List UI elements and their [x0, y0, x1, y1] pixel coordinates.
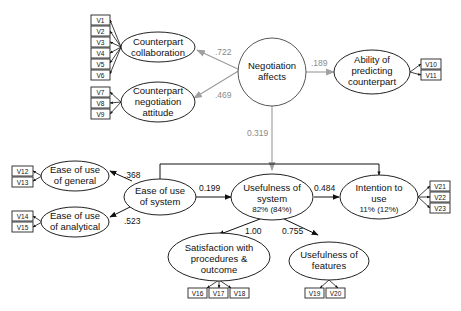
coef-label: 1.00 — [245, 226, 262, 236]
svg-text:predicting: predicting — [351, 65, 392, 76]
svg-text:V13: V13 — [17, 179, 29, 186]
variance-explained: 82% (84%) — [252, 205, 292, 214]
svg-text:system: system — [257, 193, 287, 204]
coef-label: .722 — [215, 47, 232, 57]
svg-text:affects: affects — [258, 71, 286, 82]
path-negotiation-to-usefulness: 0.319 — [247, 103, 272, 170]
svg-text:V3: V3 — [97, 39, 105, 46]
construct-counterpart-negotiation-attitude: Counterpart negotiation attitude — [121, 82, 195, 122]
svg-text:Usefulness of: Usefulness of — [243, 182, 301, 193]
indicators-attitude: V7 V8 V9 — [91, 87, 110, 119]
svg-text:V1: V1 — [97, 17, 105, 24]
svg-text:V8: V8 — [97, 100, 105, 107]
path-usefulness-to-intention: 0.484 — [314, 183, 339, 197]
svg-text:V6: V6 — [97, 72, 105, 79]
svg-text:procedures &: procedures & — [191, 253, 248, 264]
path-negotiation-to-ability: .189 — [305, 58, 334, 72]
path-negotiation-to-collaboration: .722 — [197, 47, 240, 70]
indicators-general: V12 V13 — [12, 166, 33, 187]
loadings-ability — [410, 64, 421, 75]
svg-text:of analytical: of analytical — [50, 221, 100, 232]
svg-text:Counterpart: Counterpart — [133, 85, 184, 96]
svg-text:Usefulness of: Usefulness of — [300, 249, 358, 260]
svg-text:V22: V22 — [434, 194, 446, 201]
construct-ease-of-use-general: Ease of use of general — [41, 161, 109, 191]
svg-text:Counterpart: Counterpart — [133, 36, 184, 47]
construct-ability-predicting-counterpart: Ability of predicting counterpart — [334, 50, 410, 94]
svg-text:counterpart: counterpart — [348, 76, 396, 87]
path-ease-to-general: .368 — [110, 170, 141, 181]
svg-text:of system: of system — [140, 196, 181, 207]
coef-label: .469 — [215, 90, 232, 100]
svg-text:V23: V23 — [434, 205, 446, 212]
svg-text:V17: V17 — [213, 290, 225, 297]
coef-label: 0.319 — [247, 128, 269, 138]
construct-intention-to-use: Intention to use 11% (12%) — [340, 175, 418, 219]
loadings-attitude — [110, 92, 121, 114]
svg-text:V11: V11 — [425, 72, 436, 79]
svg-text:negotiation: negotiation — [135, 96, 181, 107]
svg-text:V5: V5 — [97, 61, 105, 68]
coef-label: 0.199 — [199, 183, 221, 193]
indicators-collaboration: V1 V2 V3 V4 V5 V6 — [91, 15, 110, 80]
svg-text:V7: V7 — [97, 89, 105, 96]
indicators-ability: V10 V11 — [421, 59, 441, 80]
indicators-intention: V21 V22 V23 — [430, 181, 450, 213]
svg-text:features: features — [312, 260, 347, 271]
indicators-analytical: V14 V15 — [12, 211, 33, 232]
svg-text:V19: V19 — [309, 290, 321, 297]
indicators-satisfaction: V16 V17 V18 — [188, 288, 249, 298]
construct-ease-of-use-system: Ease of use of system — [124, 179, 196, 215]
svg-text:Ease of use: Ease of use — [135, 185, 185, 196]
svg-text:collaboration: collaboration — [131, 47, 185, 58]
construct-negotiation-affects: Negotiation affects — [238, 38, 306, 106]
svg-text:V14: V14 — [17, 213, 29, 220]
coef-label: 0.755 — [282, 226, 304, 236]
svg-text:Ease of use: Ease of use — [50, 210, 100, 221]
svg-text:Intention to: Intention to — [355, 182, 402, 193]
svg-text:V2: V2 — [97, 28, 105, 35]
svg-text:V20: V20 — [330, 290, 342, 297]
construct-counterpart-collaboration: Counterpart collaboration — [121, 32, 195, 62]
svg-text:V18: V18 — [234, 290, 246, 297]
svg-text:use: use — [371, 193, 386, 204]
construct-satisfaction: Satisfaction with procedures & outcome — [168, 233, 270, 281]
construct-ease-of-use-analytical: Ease of use of analytical — [41, 207, 109, 237]
svg-text:V15: V15 — [17, 224, 29, 231]
svg-text:V10: V10 — [425, 61, 437, 68]
svg-text:of general: of general — [54, 175, 96, 186]
construct-usefulness-of-features: Usefulness of features — [289, 242, 369, 280]
path-usefulness-to-features: 0.755 — [282, 219, 318, 236]
svg-text:V4: V4 — [97, 50, 105, 57]
variance-explained: 11% (12%) — [360, 205, 399, 214]
svg-text:V16: V16 — [192, 290, 204, 297]
loadings-intention — [418, 186, 430, 208]
indicators-features: V19 V20 — [305, 288, 345, 298]
svg-text:Satisfaction with: Satisfaction with — [185, 242, 254, 253]
coef-label: .368 — [124, 170, 141, 180]
svg-text:outcome: outcome — [201, 264, 237, 275]
svg-text:Negotiation: Negotiation — [248, 60, 296, 71]
loadings-features — [320, 280, 338, 288]
svg-text:attitude: attitude — [142, 107, 173, 118]
path-ease-to-usefulness: 0.199 — [196, 183, 231, 197]
path-negotiation-to-attitude: .469 — [194, 70, 240, 100]
svg-text:V9: V9 — [97, 111, 105, 118]
svg-text:Ease of use: Ease of use — [50, 164, 100, 175]
coef-label: 0.484 — [314, 183, 336, 193]
svg-text:Ability of: Ability of — [354, 54, 390, 65]
svg-text:V12: V12 — [17, 168, 29, 175]
coef-label: .189 — [311, 58, 328, 68]
coef-label: .523 — [124, 216, 141, 226]
sem-diagram: .722 .469 .189 0.319 .368 .523 0.199 0.4… — [0, 0, 461, 311]
svg-text:V21: V21 — [434, 183, 446, 190]
loadings-collaboration — [110, 20, 121, 74]
construct-usefulness-of-system: Usefulness of system 82% (84%) — [231, 174, 313, 220]
